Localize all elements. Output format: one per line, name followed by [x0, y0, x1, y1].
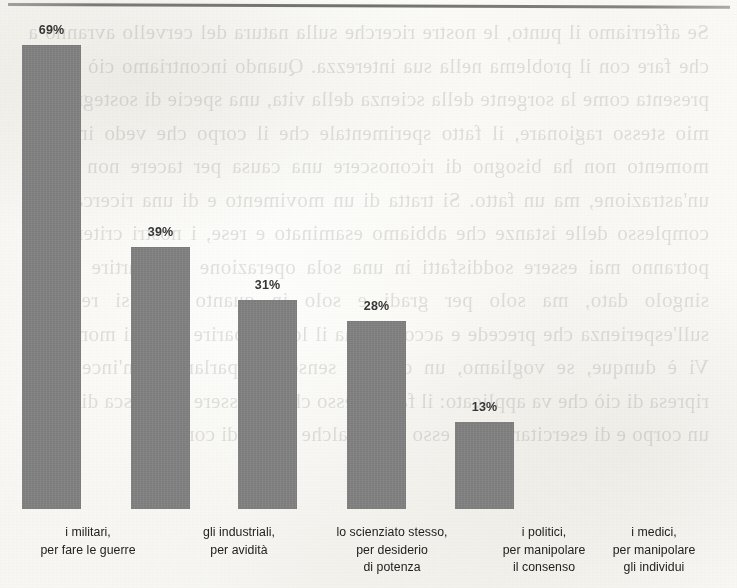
category-label-5-line-2: per manipolare	[571, 542, 737, 560]
bar-value-label-4: 28%	[327, 299, 426, 313]
bar-value-label-5: 13%	[435, 400, 534, 414]
category-label-5-line-1: i medici,	[571, 524, 737, 542]
category-label-5: i medici,per manipolaregli individui	[571, 524, 737, 577]
bar-value-label-1: 69%	[2, 23, 101, 37]
bar-value-label-2: 39%	[111, 225, 210, 239]
bar-chart: 69%i militari,per fare le guerre39%gli i…	[0, 0, 737, 588]
bar-value-label-3: 31%	[218, 278, 317, 292]
bar-3	[238, 300, 297, 509]
category-label-5-line-3: gli individui	[571, 559, 737, 577]
scanned-chart-page: Se afferriamo il punto, le nostre ricerc…	[0, 0, 737, 588]
category-label-1-line-1: i militari,	[0, 524, 176, 542]
bar-5	[455, 422, 514, 509]
category-label-1-line-2: per fare le guerre	[0, 542, 176, 560]
category-label-1: i militari,per fare le guerre	[0, 524, 176, 559]
bar-1	[22, 45, 81, 509]
bar-4	[347, 321, 406, 509]
bar-2	[131, 247, 190, 509]
